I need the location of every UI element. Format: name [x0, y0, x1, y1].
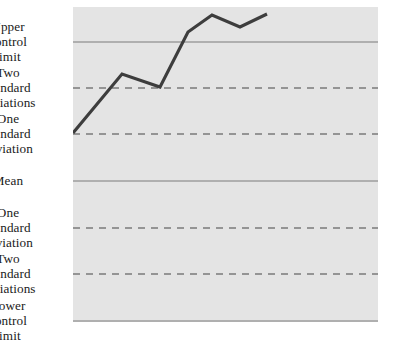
- data-series-group: [73, 14, 267, 133]
- axis-label-one-standard-deviation-upper: One standard deviation: [0, 111, 68, 157]
- reference-lines-group: [73, 42, 378, 321]
- axis-label-two-standard-deviations-lower: Two standard deviations: [0, 251, 68, 297]
- axis-label-lower-control-limit: Lower control limit: [0, 298, 68, 344]
- axis-label-two-standard-deviations-upper: Two standard deviations: [0, 65, 68, 111]
- control-chart-figure: Upper control limit Two standard deviati…: [0, 0, 394, 355]
- axis-label-mean: Mean: [0, 173, 68, 188]
- data-series-line-0: [73, 14, 267, 133]
- chart-canvas: [73, 7, 378, 322]
- axis-label-one-standard-deviation-lower: One standard deviation: [0, 205, 68, 251]
- axis-label-upper-control-limit: Upper control limit: [0, 19, 68, 65]
- plot-area: [73, 7, 378, 322]
